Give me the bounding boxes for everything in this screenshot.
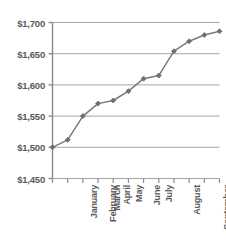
- x-tick-label: March: [112, 185, 122, 211]
- x-tick-label: April: [121, 185, 131, 205]
- x-tick-label: June: [152, 185, 162, 205]
- x-tick-label: July: [164, 185, 174, 202]
- line-chart: $1,450$1,500$1,550$1,600$1,650$1,700 Jan…: [0, 0, 226, 242]
- x-tick-label: August: [192, 185, 202, 215]
- x-tick-label: January: [89, 185, 99, 218]
- x-tick-label: May: [134, 185, 144, 202]
- x-axis: JanuaryFebruaryMarchAprilMayJuneJulyAugu…: [0, 0, 226, 242]
